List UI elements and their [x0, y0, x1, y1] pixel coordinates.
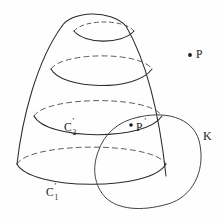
geometry-figure: P P ' C ' 2 C ' 1 K: [0, 0, 222, 222]
label-curve-c2-base: C: [64, 121, 72, 133]
label-curve-c2: C ' 2: [64, 116, 77, 137]
cone-solid: [17, 14, 166, 176]
ellipse-c2-front-arc: [34, 116, 162, 135]
cone-left-edge: [17, 26, 62, 164]
label-curve-c1-base: C: [46, 186, 54, 198]
label-curve-c1-subscript: 1: [55, 193, 59, 202]
ellipse-top-front-arc: [74, 31, 134, 41]
label-curve-c2-prime: ': [73, 116, 75, 126]
label-point-p-prime: P ': [136, 116, 147, 133]
label-curve-c1-prime: ': [55, 181, 57, 191]
label-curve-k: K: [203, 129, 212, 143]
cross-section-circle-c1: [17, 147, 166, 184]
cross-section-circle-2: [51, 56, 152, 86]
ellipse-c2-back-arc: [34, 101, 162, 116]
point-p-dot: [188, 53, 192, 57]
ellipse-2-front-arc: [51, 69, 152, 86]
point-p-prime-dot: [129, 123, 133, 127]
label-point-p-text: P: [196, 48, 202, 60]
label-point-p-prime-mark: ': [145, 116, 147, 126]
cross-section-circle-c2: [34, 101, 162, 135]
ellipse-top-back-arc: [74, 22, 134, 31]
cone-right-edge: [126, 26, 166, 176]
label-point-p: P: [196, 48, 202, 60]
cross-section-circle-top: [74, 22, 134, 41]
label-curve-c2-subscript: 2: [73, 128, 77, 137]
dome-top-arc: [62, 14, 126, 26]
ellipse-c1-front-arc: [17, 164, 166, 184]
knot-loop-path: [95, 115, 201, 209]
label-point-p-prime-base: P: [136, 121, 142, 133]
linking-curve-k: [95, 115, 201, 209]
label-curve-k-text: K: [203, 129, 212, 143]
label-curve-c1: C ' 1: [46, 181, 59, 202]
ellipse-c1-back-arc: [17, 147, 166, 164]
ellipse-2-back-arc: [51, 56, 152, 69]
figure-canvas: P P ' C ' 2 C ' 1 K: [0, 0, 222, 222]
